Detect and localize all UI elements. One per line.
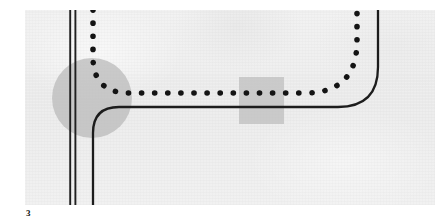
figure-plate-frame [25,10,435,205]
figure-caption: 3 [26,208,31,218]
solid-route-line [93,8,378,206]
rectangle-zone-marker [239,77,284,124]
circle-zone-marker [52,58,132,138]
dotted-route-line [93,7,357,93]
page-canvas: 3 [0,0,445,223]
figure-vector-overlay [25,10,435,205]
